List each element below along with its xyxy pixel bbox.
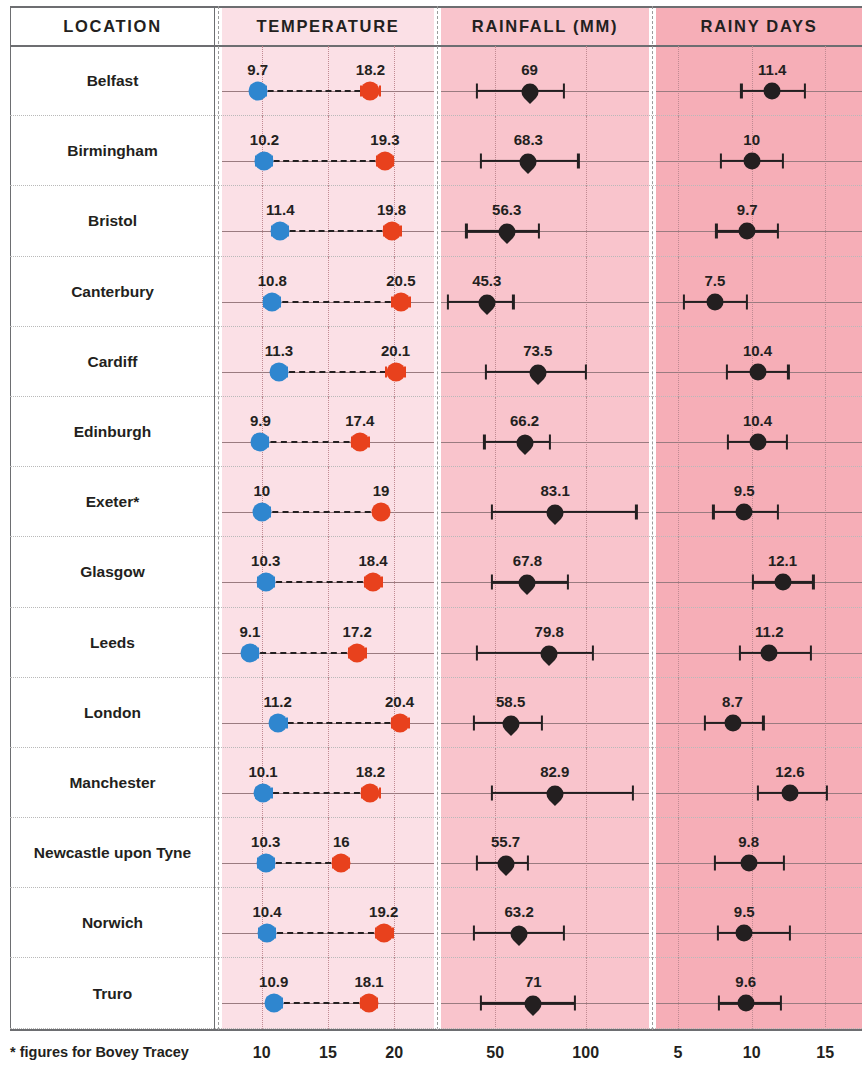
gridline [262,186,263,256]
rainy-days-cell: 10 [656,116,862,186]
gridline [586,608,587,678]
table-row: Newcastle upon Tyne10.31655.79.8 [0,818,868,888]
gridline [678,678,679,748]
axis-tick-label: 10 [253,1044,271,1062]
temperature-cell: 11.419.8 [222,186,434,256]
error-bar-cap [476,645,478,660]
location-label: Truro [10,958,215,1028]
error-bar-cap [783,856,785,871]
error-bar-cap [491,785,493,800]
gridline [394,608,395,678]
max-temperature-marker [374,924,393,943]
gridline [328,537,329,607]
gridline [495,116,496,186]
error-bar-cap [541,715,543,730]
rainy-days-marker [743,153,760,170]
max-temperature-marker [361,82,380,101]
min-temperature-marker [271,222,290,241]
error-bar [477,651,593,653]
value-label: 83.1 [541,482,570,499]
value-label: 10.8 [258,272,287,289]
gridline [586,46,587,116]
error-bar-cap [574,996,576,1011]
gridline [394,537,395,607]
rainfall-cell: 83.1 [441,467,649,537]
gridline [328,116,329,186]
gridline [328,818,329,888]
temperature-cell: 10.316 [222,818,434,888]
max-temperature-marker [360,994,379,1013]
gridline [752,186,753,256]
rainy-days-cell: 9.6 [656,958,862,1028]
axis-tick-label: 20 [385,1044,403,1062]
value-label: 11.2 [263,693,291,710]
gridline [394,818,395,888]
rainy-days-marker [706,293,723,310]
gridline [262,327,263,397]
rainy-days-marker [749,433,766,450]
value-label: 68.3 [514,131,543,148]
gridline [678,186,679,256]
gridline [752,327,753,397]
temperature-range-connector [266,581,373,583]
gridline [586,678,587,748]
gridline [825,186,826,256]
row-axis-line [441,863,649,864]
error-bar-cap [592,645,594,660]
rainy-days-marker [749,363,766,380]
temperature-range-connector [264,160,385,162]
gridline [825,397,826,467]
max-temperature-marker [348,643,367,662]
axis-tick-label: 10 [743,1044,761,1062]
weather-table: LOCATION TEMPERATURE RAINFALL (MM) RAINY… [0,0,868,1075]
error-bar-cap [527,856,529,871]
gridline [825,467,826,537]
axis-tick-label: 100 [572,1044,599,1062]
gridline [495,46,496,116]
gridline [394,467,395,537]
table-row: London11.220.458.58.7 [0,678,868,748]
temperature-cell: 9.117.2 [222,608,434,678]
gridline [586,748,587,818]
gridline [495,958,496,1028]
table-row: Norwich10.419.263.29.5 [0,888,868,958]
rainfall-marker [521,992,545,1016]
value-label: 9.7 [247,61,268,78]
value-label: 9.5 [734,903,755,920]
table-row: Belfast9.718.26911.4 [0,46,868,116]
gridline [394,46,395,116]
gridline [678,257,679,327]
value-label: 9.8 [738,833,759,850]
axis-tick-label: 50 [486,1044,504,1062]
value-label: 17.4 [345,412,374,429]
temperature-cell: 11.220.4 [222,678,434,748]
gridline [262,958,263,1028]
rainfall-cell: 63.2 [441,888,649,958]
table-row: Exeter*101983.19.5 [0,467,868,537]
error-bar-cap [781,154,783,169]
gridline [825,958,826,1028]
rainy-days-cell: 7.5 [656,257,862,327]
gridline [825,888,826,958]
temperature-cell: 10.219.3 [222,116,434,186]
rainy-days-marker [736,925,753,942]
value-label: 9.5 [734,482,755,499]
location-label: Manchester [10,748,215,818]
gridline [495,397,496,467]
axis-tick-label: 15 [319,1044,337,1062]
gridline [752,537,753,607]
rainy-days-cell: 11.2 [656,608,862,678]
error-bar-cap [585,364,587,379]
error-bar-cap [480,996,482,1011]
temperature-cell: 9.917.4 [222,397,434,467]
error-bar-cap [703,715,705,730]
gridline [752,257,753,327]
gridline [752,748,753,818]
rainfall-cell: 45.3 [441,257,649,327]
rainy-days-cell: 11.4 [656,46,862,116]
temperature-range-connector [260,441,359,443]
value-label: 20.1 [381,342,410,359]
temperature-cell: 10.820.5 [222,257,434,327]
gridline [752,467,753,537]
rainfall-marker [516,150,540,174]
